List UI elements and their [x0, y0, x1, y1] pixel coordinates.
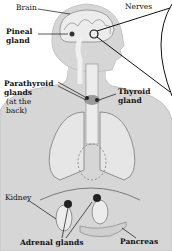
label-pineal-2: gland	[6, 37, 30, 45]
label-kidney: Kidney	[5, 194, 31, 202]
label-parathyroid-1: Parathyroid	[4, 80, 53, 88]
label-thyroid-1: Thyroid	[118, 88, 150, 96]
endocrine-diagram: Brain Nerves Pineal gland Parathyroid gl…	[0, 0, 172, 251]
adrenal-gland-right	[93, 194, 101, 202]
label-parathyroid-note-2: back)	[6, 107, 27, 115]
label-adrenal: Adrenal glands	[20, 239, 83, 247]
parathyroid-gland-left	[85, 96, 89, 100]
adrenal-gland-left	[64, 200, 72, 208]
label-parathyroid-2: glands	[4, 89, 32, 97]
label-nerves: Nerves	[125, 3, 152, 11]
label-pineal-1: Pineal	[6, 28, 32, 36]
label-brain: Brain	[16, 4, 37, 12]
spinal-cord	[78, 38, 80, 84]
label-thyroid-2: gland	[118, 97, 142, 105]
parathyroid-gland-right	[95, 98, 99, 102]
zoom-inset	[161, 4, 172, 96]
pineal-gland	[70, 32, 75, 37]
label-pancreas: Pancreas	[120, 238, 158, 246]
kidney-right	[92, 200, 108, 224]
label-parathyroid-note-1: (at the	[6, 98, 31, 106]
